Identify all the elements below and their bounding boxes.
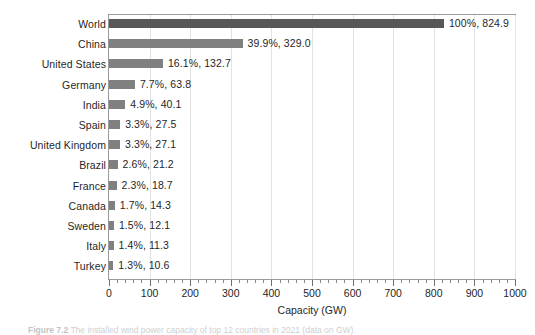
axis-tick-major bbox=[353, 280, 354, 286]
axis-tick-minor bbox=[426, 280, 427, 283]
axis-tick-minor bbox=[133, 280, 134, 283]
axis-tick-label: 900 bbox=[466, 287, 484, 299]
axis-tick-minor bbox=[491, 280, 492, 283]
bar-value-label: 1.5%, 12.1 bbox=[119, 220, 170, 231]
axis-tick-label: 500 bbox=[303, 287, 321, 299]
axis-tick-major bbox=[312, 280, 313, 286]
axis-tick-minor bbox=[174, 280, 175, 283]
gridline bbox=[190, 15, 191, 279]
axis-tick-major bbox=[271, 280, 272, 286]
axis-tick-major bbox=[190, 280, 191, 286]
bar-value-label: 16.1%, 132.7 bbox=[168, 58, 231, 69]
category-label: Spain bbox=[8, 120, 106, 131]
gridline bbox=[515, 15, 516, 279]
category-label: France bbox=[8, 181, 106, 192]
bar-value-label: 4.9%, 40.1 bbox=[130, 99, 181, 110]
category-label: Sweden bbox=[8, 221, 106, 232]
bar bbox=[109, 201, 115, 210]
axis-tick-minor bbox=[466, 280, 467, 283]
plot-area: 100%, 824.939.9%, 329.016.1%, 132.77.7%,… bbox=[108, 14, 516, 280]
axis-tick-minor bbox=[141, 280, 142, 283]
bar-value-label: 100%, 824.9 bbox=[449, 18, 509, 29]
figure-caption-text: The installed wind power capacity of top… bbox=[70, 325, 355, 335]
axis-tick-label: 1000 bbox=[503, 287, 526, 299]
axis-tick-minor bbox=[223, 280, 224, 283]
axis-tick-minor bbox=[507, 280, 508, 283]
axis-tick-minor bbox=[499, 280, 500, 283]
bar-value-label: 39.9%, 329.0 bbox=[248, 38, 311, 49]
category-label: Brazil bbox=[8, 160, 106, 171]
category-label: China bbox=[8, 39, 106, 50]
axis-tick-label: 300 bbox=[222, 287, 240, 299]
bar bbox=[109, 221, 114, 230]
bar bbox=[109, 160, 118, 169]
axis-tick-minor bbox=[158, 280, 159, 283]
bar-chart: WorldChinaUnited StatesGermanyIndiaSpain… bbox=[0, 8, 535, 293]
bar bbox=[109, 120, 120, 129]
axis-tick-label: 0 bbox=[106, 287, 112, 299]
bar-value-label: 2.3%, 18.7 bbox=[122, 180, 173, 191]
axis-tick-minor bbox=[255, 280, 256, 283]
category-label: World bbox=[8, 19, 106, 30]
axis-tick-minor bbox=[304, 280, 305, 283]
axis-tick-label: 400 bbox=[263, 287, 281, 299]
category-label: Turkey bbox=[8, 261, 106, 272]
axis-tick-major bbox=[474, 280, 475, 286]
bar-value-label: 3.3%, 27.5 bbox=[125, 119, 176, 130]
axis-tick-minor bbox=[344, 280, 345, 283]
gridline bbox=[393, 15, 394, 279]
category-label: India bbox=[8, 100, 106, 111]
figure-caption-label: Figure 7.2 bbox=[28, 325, 68, 335]
category-label: Germany bbox=[8, 80, 106, 91]
axis-tick-minor bbox=[409, 280, 410, 283]
axis-tick-minor bbox=[182, 280, 183, 283]
axis-tick-major bbox=[150, 280, 151, 286]
axis-tick-label: 200 bbox=[181, 287, 199, 299]
axis-tick-minor bbox=[385, 280, 386, 283]
axis-tick-label: 800 bbox=[425, 287, 443, 299]
axis-tick-minor bbox=[215, 280, 216, 283]
gridline bbox=[353, 15, 354, 279]
gridline bbox=[474, 15, 475, 279]
axis-tick-minor bbox=[483, 280, 484, 283]
axis-tick-minor bbox=[198, 280, 199, 283]
bar-value-label: 3.3%, 27.1 bbox=[125, 139, 176, 150]
axis-tick-minor bbox=[320, 280, 321, 283]
axis-tick-minor bbox=[125, 280, 126, 283]
axis-tick-minor bbox=[239, 280, 240, 283]
category-label: United States bbox=[8, 59, 106, 70]
axis-tick-minor bbox=[377, 280, 378, 283]
category-label: Canada bbox=[8, 201, 106, 212]
axis-tick-minor bbox=[263, 280, 264, 283]
axis-tick-label: 600 bbox=[344, 287, 362, 299]
axis-tick-minor bbox=[117, 280, 118, 283]
category-label: United Kingdom bbox=[8, 140, 106, 151]
axis-tick-label: 100 bbox=[141, 287, 159, 299]
bar bbox=[109, 80, 135, 89]
axis-tick-major bbox=[109, 280, 110, 286]
bar bbox=[109, 100, 125, 109]
bar bbox=[109, 181, 117, 190]
axis-tick-minor bbox=[247, 280, 248, 283]
gridline bbox=[271, 15, 272, 279]
bar-value-label: 1.4%, 11.3 bbox=[119, 240, 169, 251]
figure-caption: Figure 7.2 The installed wind power capa… bbox=[28, 325, 518, 335]
axis-tick-minor bbox=[418, 280, 419, 283]
gridline bbox=[434, 15, 435, 279]
bar bbox=[109, 19, 444, 28]
axis-tick-major bbox=[515, 280, 516, 286]
bar-value-label: 7.7%, 63.8 bbox=[140, 79, 191, 90]
bar-value-label: 2.6%, 21.2 bbox=[123, 159, 174, 170]
axis-tick-major bbox=[434, 280, 435, 286]
x-axis-title: Capacity (GW) bbox=[108, 304, 516, 316]
axis-tick-minor bbox=[361, 280, 362, 283]
bar bbox=[109, 59, 163, 68]
axis-tick-minor bbox=[288, 280, 289, 283]
axis-tick-minor bbox=[450, 280, 451, 283]
axis-tick-major bbox=[231, 280, 232, 286]
axis-tick-minor bbox=[458, 280, 459, 283]
gridline bbox=[231, 15, 232, 279]
bar-value-label: 1.7%, 14.3 bbox=[120, 200, 171, 211]
axis-tick-minor bbox=[328, 280, 329, 283]
axis-tick-minor bbox=[280, 280, 281, 283]
